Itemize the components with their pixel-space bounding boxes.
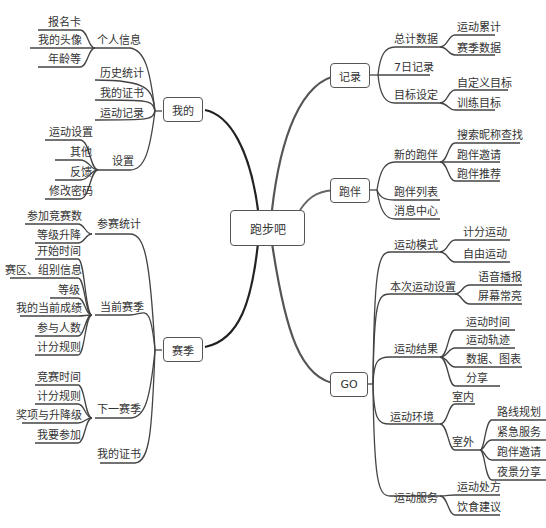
node-indoor[interactable]: 室内 — [452, 391, 474, 404]
leaf-training-goal[interactable]: 训练目标 — [457, 97, 501, 110]
node-goal-setting[interactable]: 目标设定 — [394, 89, 438, 102]
node-record[interactable]: 记录 — [330, 63, 370, 88]
leaf-voice-broadcast[interactable]: 语音播报 — [478, 271, 522, 284]
node-partner[interactable]: 跑伴 — [330, 178, 370, 203]
leaf-start-time[interactable]: 开始时间 — [37, 245, 81, 258]
leaf-partner-invite[interactable]: 跑伴邀请 — [457, 149, 501, 162]
leaf-change-password[interactable]: 修改密码 — [49, 185, 93, 198]
node-go[interactable]: GO — [330, 372, 368, 397]
node-wode[interactable]: 我的 — [163, 97, 203, 122]
leaf-custom-goal[interactable]: 自定义目标 — [457, 77, 512, 90]
node-personal[interactable]: 个人信息 — [97, 34, 141, 47]
leaf-avatar[interactable]: 我的头像 — [38, 34, 82, 47]
node-wode-label: 我的 — [172, 102, 194, 118]
leaf-division-info[interactable]: 赛区、组别信息 — [5, 264, 82, 277]
leaf-next-scoring-rules[interactable]: 计分规则 — [37, 390, 81, 403]
node-certs[interactable]: 我的证书 — [100, 87, 144, 100]
leaf-share[interactable]: 分享 — [466, 372, 488, 385]
node-next-season[interactable]: 下一赛季 — [97, 403, 141, 416]
leaf-awards[interactable]: 奖项与升降级 — [16, 409, 82, 422]
leaf-other[interactable]: 其他 — [70, 146, 92, 159]
node-sport-service[interactable]: 运动服务 — [394, 492, 438, 505]
node-records[interactable]: 运动记录 — [100, 107, 144, 120]
leaf-free-sport[interactable]: 自由运动 — [463, 248, 507, 261]
leaf-join[interactable]: 我要参加 — [37, 429, 81, 442]
node-season-label: 赛季 — [172, 342, 194, 358]
node-7day-record[interactable]: 7日记录 — [394, 61, 434, 74]
node-match-stats[interactable]: 参赛统计 — [97, 218, 141, 231]
leaf-sport-settings[interactable]: 运动设置 — [49, 126, 93, 139]
leaf-night-share[interactable]: 夜景分享 — [497, 466, 541, 479]
node-settings[interactable]: 设置 — [112, 155, 134, 168]
node-go-label: GO — [340, 378, 357, 391]
node-partner-list[interactable]: 跑伴列表 — [394, 186, 438, 199]
node-partner-label: 跑伴 — [339, 183, 361, 199]
leaf-prescription[interactable]: 运动处方 — [457, 481, 501, 494]
node-record-label: 记录 — [339, 68, 361, 84]
leaf-route-planning[interactable]: 路线规划 — [497, 406, 541, 419]
leaf-participants[interactable]: 参与人数 — [37, 322, 81, 335]
node-season-certs[interactable]: 我的证书 — [97, 448, 141, 461]
leaf-sport-time[interactable]: 运动时间 — [466, 316, 510, 329]
leaf-current-score[interactable]: 我的当前成绩 — [16, 302, 82, 315]
node-new-partner[interactable]: 新的跑伴 — [394, 149, 438, 162]
node-sport-mode[interactable]: 运动模式 — [394, 239, 438, 252]
leaf-emergency[interactable]: 紧急服务 — [497, 426, 541, 439]
leaf-signup-card[interactable]: 报名卡 — [48, 16, 81, 29]
leaf-data-charts[interactable]: 数据、图表 — [466, 353, 521, 366]
node-sport-env[interactable]: 运动环境 — [390, 411, 434, 424]
root-node[interactable]: 跑步吧 — [230, 210, 305, 246]
leaf-season-data[interactable]: 赛季数据 — [457, 42, 501, 55]
leaf-match-time[interactable]: 竞赛时间 — [37, 371, 81, 384]
leaf-age[interactable]: 年龄等 — [48, 53, 81, 66]
node-message-center[interactable]: 消息中心 — [394, 205, 438, 218]
node-session-settings[interactable]: 本次运动设置 — [390, 281, 456, 294]
node-season[interactable]: 赛季 — [163, 337, 203, 362]
leaf-screen-on[interactable]: 屏幕常亮 — [478, 290, 522, 303]
root-label: 跑步吧 — [250, 220, 286, 237]
leaf-score-sport[interactable]: 计分运动 — [463, 226, 507, 239]
node-outdoor[interactable]: 室外 — [452, 436, 474, 449]
leaf-scoring-rules[interactable]: 计分规则 — [37, 341, 81, 354]
leaf-search-nickname[interactable]: 搜索昵称查找 — [457, 129, 523, 142]
leaf-partner-recommend[interactable]: 跑伴推荐 — [457, 168, 501, 181]
leaf-diet-advice[interactable]: 饮食建议 — [457, 501, 501, 514]
leaf-env-partner-invite[interactable]: 跑伴邀请 — [497, 446, 541, 459]
node-total-data[interactable]: 总计数据 — [394, 33, 438, 46]
node-history[interactable]: 历史统计 — [100, 67, 144, 80]
node-current-season[interactable]: 当前赛季 — [100, 301, 144, 314]
leaf-level[interactable]: 等级 — [58, 284, 80, 297]
leaf-feedback[interactable]: 反馈 — [70, 166, 92, 179]
leaf-sport-total[interactable]: 运动累计 — [457, 21, 501, 34]
leaf-match-count[interactable]: 参加竞赛数 — [27, 210, 82, 223]
node-sport-result[interactable]: 运动结果 — [394, 343, 438, 356]
leaf-level-change[interactable]: 等级升降 — [37, 229, 81, 242]
leaf-sport-track[interactable]: 运动轨迹 — [466, 334, 510, 347]
